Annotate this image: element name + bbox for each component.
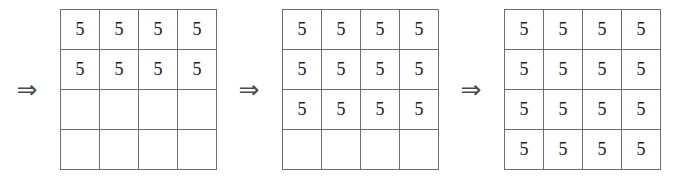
grid-cell[interactable]: 5	[544, 130, 583, 170]
implies-arrow-icon: ⇒	[12, 77, 42, 102]
grid-cell[interactable]: 5	[61, 50, 100, 90]
grid-cell-empty[interactable]	[178, 90, 217, 130]
grid-cell-empty[interactable]	[361, 130, 400, 170]
grid-cell[interactable]: 5	[322, 10, 361, 50]
grid-cell[interactable]: 5	[283, 90, 322, 130]
grid-cell[interactable]: 5	[61, 10, 100, 50]
grid-cell[interactable]: 5	[400, 10, 439, 50]
grid-cell-empty[interactable]	[139, 90, 178, 130]
grid-cell[interactable]: 5	[505, 50, 544, 90]
grid-cell-empty[interactable]	[61, 90, 100, 130]
grid-cell[interactable]: 5	[178, 50, 217, 90]
implies-arrow-icon: ⇒	[234, 77, 264, 102]
grid-row: 5 5 5 5	[505, 130, 661, 170]
grid-cell-empty[interactable]	[400, 130, 439, 170]
grid-cell[interactable]: 5	[505, 90, 544, 130]
grid-cell[interactable]: 5	[583, 50, 622, 90]
grid-row: 5 5 5 5	[505, 50, 661, 90]
grid-cell-empty[interactable]	[178, 130, 217, 170]
grid-cell[interactable]: 5	[361, 50, 400, 90]
grid-cell[interactable]: 5	[583, 130, 622, 170]
grid-cell[interactable]: 5	[622, 90, 661, 130]
grid-cell[interactable]: 5	[283, 50, 322, 90]
grid-2: 5 5 5 5 5 5 5 5 5 5 5 5	[282, 9, 439, 170]
sequence-step-3: ⇒ 5 5 5 5 5 5 5 5	[456, 0, 661, 179]
grid-row	[283, 130, 439, 170]
grid-row: 5 5 5 5	[61, 10, 217, 50]
grid-cell-empty[interactable]	[100, 130, 139, 170]
grid-row	[61, 90, 217, 130]
grid-row: 5 5 5 5	[505, 10, 661, 50]
grid-cell-empty[interactable]	[322, 130, 361, 170]
grid-cell[interactable]: 5	[361, 90, 400, 130]
grid-cell[interactable]: 5	[400, 90, 439, 130]
grid-cell[interactable]: 5	[583, 10, 622, 50]
grid-cell-empty[interactable]	[139, 130, 178, 170]
grid-row	[61, 130, 217, 170]
grid-cell[interactable]: 5	[100, 10, 139, 50]
sequence-step-2: ⇒ 5 5 5 5 5 5 5 5	[234, 0, 439, 179]
grid-row: 5 5 5 5	[283, 50, 439, 90]
grid-cell[interactable]: 5	[283, 10, 322, 50]
grid-fill-figure: ⇒ 5 5 5 5 5 5 5 5	[0, 0, 678, 179]
grid-row: 5 5 5 5	[505, 90, 661, 130]
grid-cell[interactable]: 5	[544, 10, 583, 50]
grid-cell-empty[interactable]	[100, 90, 139, 130]
grid-cell[interactable]: 5	[139, 10, 178, 50]
grid-row: 5 5 5 5	[61, 50, 217, 90]
implies-arrow-icon: ⇒	[456, 77, 486, 102]
sequence-step-1: ⇒ 5 5 5 5 5 5 5 5	[12, 0, 217, 179]
grid-1-wrapper: 5 5 5 5 5 5 5 5	[60, 9, 217, 170]
grid-cell[interactable]: 5	[178, 10, 217, 50]
grid-cell[interactable]: 5	[100, 50, 139, 90]
grid-cell[interactable]: 5	[505, 130, 544, 170]
grid-3: 5 5 5 5 5 5 5 5 5 5 5 5	[504, 9, 661, 170]
grid-cell[interactable]: 5	[544, 50, 583, 90]
grid-cell[interactable]: 5	[622, 50, 661, 90]
grid-3-wrapper: 5 5 5 5 5 5 5 5 5 5 5 5	[504, 9, 661, 170]
grid-cell[interactable]: 5	[505, 10, 544, 50]
grid-row: 5 5 5 5	[283, 90, 439, 130]
grid-cell[interactable]: 5	[544, 90, 583, 130]
grid-cell[interactable]: 5	[622, 130, 661, 170]
grid-cell[interactable]: 5	[322, 50, 361, 90]
grid-1: 5 5 5 5 5 5 5 5	[60, 9, 217, 170]
grid-cell[interactable]: 5	[322, 90, 361, 130]
grid-cell-empty[interactable]	[61, 130, 100, 170]
grid-row: 5 5 5 5	[283, 10, 439, 50]
grid-cell[interactable]: 5	[400, 50, 439, 90]
grid-cell[interactable]: 5	[361, 10, 400, 50]
grid-2-wrapper: 5 5 5 5 5 5 5 5 5 5 5 5	[282, 9, 439, 170]
grid-cell[interactable]: 5	[622, 10, 661, 50]
grid-cell[interactable]: 5	[583, 90, 622, 130]
grid-cell-empty[interactable]	[283, 130, 322, 170]
grid-cell[interactable]: 5	[139, 50, 178, 90]
